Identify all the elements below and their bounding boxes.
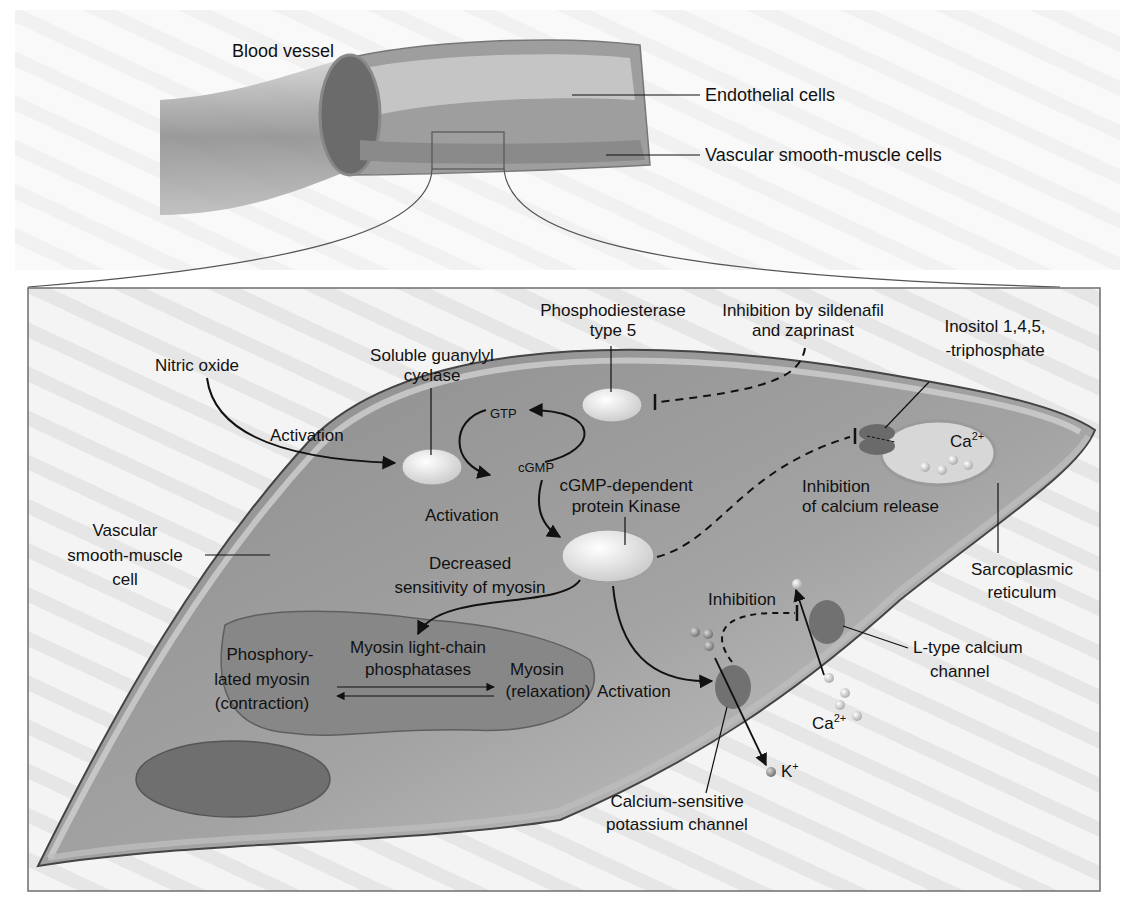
calcium-ion [963, 460, 973, 470]
label-myosin-line2: (relaxation) [505, 682, 590, 701]
label-vsmc-line3: cell [112, 570, 138, 589]
label-phosphorylated-line1: Phosphory- [227, 645, 314, 664]
label-inhibition-release-line1: Inhibition [802, 477, 870, 496]
label-l-type-line2: channel [930, 662, 990, 681]
label-phosphorylated-line3: (contraction) [215, 694, 309, 713]
label-activation-cgmp: Activation [425, 506, 499, 525]
nucleus [136, 741, 330, 817]
label-activation-k-channel: Activation [597, 682, 671, 701]
calcium-ion [920, 462, 930, 472]
label-decreased-line1: Decreased [429, 554, 511, 573]
label-l-type-line1: L-type calcium [913, 638, 1023, 657]
label-inhibition-l-type: Inhibition [708, 590, 776, 609]
label-cgmp: cGMP [518, 460, 554, 475]
label-sgc-line2: cyclase [404, 366, 461, 385]
label-pde5-line2: type 5 [590, 321, 636, 340]
l-type-calcium-channel [809, 600, 845, 644]
calcium-ion [792, 579, 802, 589]
label-activation-no: Activation [270, 426, 344, 445]
calcium-ion [840, 688, 850, 698]
label-blood-vessel: Blood vessel [232, 41, 334, 61]
potassium-ion [766, 767, 776, 777]
calcium-ion [835, 700, 845, 710]
calcium-sensitive-potassium-channel [715, 665, 751, 709]
label-ip3-line2: -triphosphate [945, 341, 1044, 360]
label-pde5-line1: Phosphodiesterase [540, 301, 686, 320]
label-myosin-line1: Myosin [510, 660, 564, 679]
phosphodiesterase-type-5 [582, 388, 642, 422]
calcium-ion [937, 465, 947, 475]
soluble-guanylyl-cyclase [402, 449, 462, 485]
calcium-ion [852, 711, 862, 721]
label-pkg-line2: protein Kinase [572, 497, 681, 516]
label-vsmc-line2: smooth-muscle [67, 546, 182, 565]
pathway-diagram: Blood vessel Endothelial cells Vascular … [0, 0, 1135, 919]
label-mlcp-line1: Myosin light-chain [350, 638, 486, 657]
label-vascular-smooth-muscle-cells: Vascular smooth-muscle cells [705, 145, 942, 165]
label-decreased-line2: sensitivity of myosin [394, 578, 545, 597]
label-pkg-line1: cGMP-dependent [559, 476, 693, 495]
label-sildenafil-line2: and zaprinast [752, 321, 854, 340]
potassium-ion [704, 641, 714, 651]
label-sildenafil-line1: Inhibition by sildenafil [722, 301, 884, 320]
label-mlcp-line2: phosphatases [365, 660, 471, 679]
label-endothelial-cells: Endothelial cells [705, 85, 835, 105]
label-phosphorylated-line2: lated myosin [214, 670, 309, 689]
label-sgc-line1: Soluble guanylyl [370, 346, 494, 365]
diagram-canvas: Blood vessel Endothelial cells Vascular … [0, 0, 1135, 919]
ip3-receptor-icon [859, 437, 895, 455]
top-panel: Blood vessel Endothelial cells Vascular … [15, 10, 1120, 287]
label-kca-line2: potassium channel [606, 815, 748, 834]
label-sr-line1: Sarcoplasmic [971, 560, 1074, 579]
label-gtp: GTP [490, 406, 517, 421]
potassium-ion [690, 627, 700, 637]
label-ip3-line1: Inositol 1,4,5, [944, 317, 1045, 336]
calcium-ion [948, 455, 958, 465]
cell-panel: Nitric oxide Activation Soluble guanylyl… [28, 288, 1100, 891]
label-inhibition-release-line2: of calcium release [802, 497, 939, 516]
label-nitric-oxide: Nitric oxide [155, 356, 239, 375]
potassium-ion [703, 629, 713, 639]
label-sr-line2: reticulum [988, 583, 1057, 602]
calcium-ion [824, 673, 834, 683]
cgmp-dependent-protein-kinase [562, 530, 654, 582]
label-vsmc-line1: Vascular [93, 521, 158, 540]
label-kca-line1: Calcium-sensitive [610, 792, 743, 811]
